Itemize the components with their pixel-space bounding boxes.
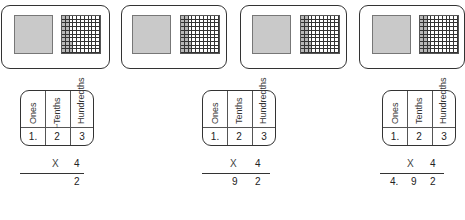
- header-ones: Ones: [390, 102, 400, 124]
- header-ones: Ones: [210, 102, 220, 124]
- times-sign: X: [230, 158, 237, 169]
- digit-ones: 1.: [21, 131, 45, 142]
- multiplier: 4: [255, 158, 261, 169]
- block-card-1: [1, 5, 110, 69]
- multiplier: 4: [430, 158, 436, 169]
- header-hundredths: Hundredths: [438, 77, 448, 124]
- hundredths-grid: [419, 15, 459, 54]
- answer-rule: [202, 173, 270, 174]
- hundredths-grid: [180, 15, 220, 54]
- header-ones: Ones: [28, 102, 38, 124]
- header-hundredths: Hundredths: [258, 77, 268, 124]
- times-sign: X: [52, 158, 59, 169]
- digit-hundredths: 3: [432, 131, 456, 142]
- multiplier: 4: [74, 158, 80, 169]
- times-sign: X: [407, 158, 414, 169]
- ones-block: [252, 15, 291, 54]
- ones-block: [14, 15, 53, 54]
- header-tenths: Tenths: [52, 97, 62, 124]
- place-value-table-3: Ones Tenths Hundredths 1. 2 3: [382, 90, 456, 146]
- place-value-table-1: Ones Tenths Hundredths 1 1. 2 3: [20, 90, 94, 146]
- digit-ones: 1.: [383, 131, 407, 142]
- ones-block: [372, 15, 411, 54]
- answer-ones: 4.: [390, 176, 398, 187]
- answer-tenths: 9: [411, 176, 417, 187]
- header-tenths: Tenths: [234, 97, 244, 124]
- block-card-4: [359, 5, 465, 69]
- answer-hundredths: 2: [74, 176, 80, 187]
- digit-tenths: 2: [45, 131, 69, 142]
- block-card-2: [121, 5, 227, 69]
- place-value-table-2: Ones Tenths Hundredths 1. 2 3: [202, 90, 276, 146]
- digit-ones: 1.: [203, 131, 227, 142]
- answer-tenths: 9: [232, 176, 238, 187]
- digit-tenths: 2: [407, 131, 431, 142]
- answer-hundredths: 2: [255, 176, 261, 187]
- ones-block: [132, 15, 171, 54]
- header-tenths: Tenths: [414, 97, 424, 124]
- digit-hundredths: 3: [70, 131, 94, 142]
- answer-hundredths: 2: [430, 176, 436, 187]
- header-hundredths: Hundredths: [76, 77, 86, 124]
- block-card-3: [240, 5, 347, 69]
- hundredths-grid: [300, 15, 340, 54]
- hundredths-grid: [61, 15, 101, 54]
- digit-tenths: 2: [227, 131, 251, 142]
- digit-hundredths: 3: [252, 131, 276, 142]
- header-divider: [203, 127, 275, 128]
- answer-rule: [20, 173, 84, 174]
- answer-rule: [380, 173, 444, 174]
- header-divider: [383, 127, 455, 128]
- carry-digit: 1: [45, 123, 69, 129]
